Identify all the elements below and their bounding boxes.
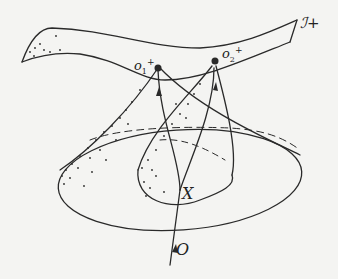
scri-ribbon-bottom-edge (22, 42, 290, 80)
diagram-svg (0, 0, 338, 279)
cone1-right-edge (160, 68, 300, 155)
spacetime-diagram: ℐ+ o1+ o2+ X O (0, 0, 338, 279)
point-o1-icon (155, 65, 162, 72)
arrow-o2-icon (213, 82, 218, 91)
point-o2-icon (212, 58, 219, 65)
o1-plus-label: o1+ (134, 58, 154, 76)
event-x-label: X (182, 186, 193, 202)
stipple-shading (29, 35, 201, 197)
observer-o-label: O (176, 242, 189, 258)
arrow-o1-icon (156, 87, 162, 96)
o2-plus-label: o2+ (222, 46, 242, 64)
scri-plus-label: ℐ+ (300, 16, 320, 31)
